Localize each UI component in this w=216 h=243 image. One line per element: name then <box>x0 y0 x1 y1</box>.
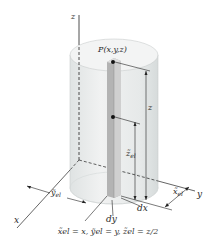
x-el-subscript: el <box>178 190 183 197</box>
cylinder-diagram <box>0 0 216 243</box>
dx-label: dx <box>137 204 148 213</box>
point-p-label: P(x,y,z) <box>98 46 127 54</box>
y-axis-label: y <box>197 190 202 199</box>
x-el-label: x̃el <box>173 188 183 197</box>
x-axis <box>17 160 79 228</box>
column-element <box>107 58 121 198</box>
z-el-subscript: el <box>130 152 135 159</box>
z-el-label: z̃el <box>126 150 136 159</box>
dy-label: dy <box>106 215 117 224</box>
z-length-label: z <box>148 104 152 112</box>
x-axis-label: x <box>14 216 19 225</box>
y-el-subscript: el <box>56 191 61 198</box>
centroid-formula: x̃el = x, ỹel = y, z̃el = z/2 <box>0 228 216 236</box>
y-el-label: ỹel <box>51 189 61 198</box>
z-axis-label: z <box>71 13 75 21</box>
point-p <box>111 60 115 64</box>
centroid-point <box>111 115 115 119</box>
